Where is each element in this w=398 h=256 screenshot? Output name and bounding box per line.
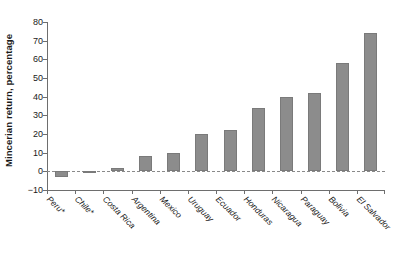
y-axis-tick-label: 40 [17,92,43,102]
bar [364,33,377,171]
y-axis-tick-label: 10 [17,148,43,158]
bar [55,171,68,177]
x-axis-category-label: Peru* [45,194,67,216]
bar [139,156,152,171]
y-axis-tick-label: 70 [17,36,43,46]
y-axis-tick-label: 30 [17,110,43,120]
bar [83,171,96,173]
x-axis-category-label: El Salvador [355,194,393,232]
bar [336,63,349,171]
bar [224,130,237,171]
x-axis-category-label: Chile* [73,194,96,217]
y-axis-tick-label: 0 [17,166,43,176]
bar [308,93,321,171]
bar [252,108,265,171]
y-axis-tick-label: 60 [17,54,43,64]
x-axis-category-labels: Peru*Chile*Costa RicaArgentinaMexicoUrug… [47,194,398,256]
y-axis-tick-labels: 80706050403020100−10 [17,0,43,256]
y-axis-title-text: Mincerian return, percentage [4,33,15,166]
y-axis-title: Mincerian return, percentage [0,0,18,200]
x-axis-category-label: Uruguay [186,194,216,224]
plot-area [47,22,385,190]
x-axis-category-label: Ecuador [214,194,243,223]
chart-container: Mincerian return, percentage 80706050403… [0,0,398,256]
y-axis-tick-label: 50 [17,73,43,83]
y-axis-tick-label: 20 [17,129,43,139]
y-axis-tick-label: 80 [17,17,43,27]
x-axis-category-label: Bolivia [327,194,352,219]
bar [195,134,208,171]
x-axis-category-label: Mexico [158,194,184,220]
bar [111,168,124,172]
y-axis-tick-label: −10 [17,185,43,195]
bar [167,153,180,172]
bar [280,97,293,172]
